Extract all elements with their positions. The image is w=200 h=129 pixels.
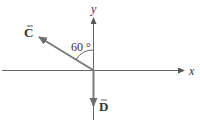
angle-label: 60 °: [71, 40, 91, 54]
vector-diagram: 60 ° y x C D: [0, 0, 200, 129]
x-axis-label: x: [188, 64, 195, 78]
vector-c-label: C: [24, 25, 33, 40]
y-axis-label: y: [90, 2, 97, 16]
vector-d-label: D: [99, 99, 108, 114]
